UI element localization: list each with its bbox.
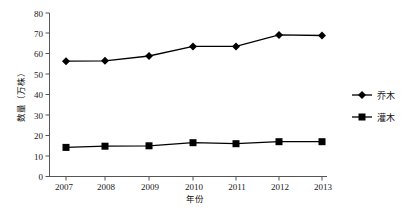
legend-label-trees: 乔木 xyxy=(377,90,395,101)
line-chart: 0 10 20 30 40 50 60 70 80 2007 2008 2009… xyxy=(0,0,416,212)
y-tick-label-80: 80 xyxy=(34,9,44,19)
legend: 乔木 灌木 xyxy=(352,90,395,123)
y-tick-label-40: 40 xyxy=(34,90,44,100)
x-tick-label-2007: 2007 xyxy=(55,182,74,192)
y-tick-label-10: 10 xyxy=(34,152,44,162)
chart-canvas: 0 10 20 30 40 50 60 70 80 2007 2008 2009… xyxy=(0,0,416,212)
series-markers-trees xyxy=(62,31,326,65)
legend-marker-square-icon xyxy=(359,114,366,121)
legend-item-shrubs[interactable]: 灌木 xyxy=(352,112,395,123)
x-tick-label-2010: 2010 xyxy=(185,182,204,192)
x-tick-label-2008: 2008 xyxy=(97,182,116,192)
y-tick-label-30: 30 xyxy=(34,111,44,121)
legend-marker-diamond-icon xyxy=(358,91,366,99)
y-tick-label-50: 50 xyxy=(34,70,44,80)
x-axis-title: 年份 xyxy=(186,194,204,204)
x-tick-label-2013: 2013 xyxy=(314,182,333,192)
series-markers-shrubs xyxy=(63,138,326,151)
y-axis-ticks xyxy=(46,13,50,177)
x-tick-label-2009: 2009 xyxy=(141,182,160,192)
y-tick-label-70: 70 xyxy=(34,29,44,39)
x-tick-label-2011: 2011 xyxy=(228,182,246,192)
legend-label-shrubs: 灌木 xyxy=(377,112,395,123)
legend-item-trees[interactable]: 乔木 xyxy=(352,90,395,101)
x-axis-ticks xyxy=(66,177,322,181)
y-axis-title: 数量（万株） xyxy=(16,68,26,122)
y-tick-label-60: 60 xyxy=(34,49,44,59)
x-tick-label-2012: 2012 xyxy=(271,182,289,192)
y-tick-label-0: 0 xyxy=(39,172,44,182)
y-tick-label-20: 20 xyxy=(34,131,44,141)
